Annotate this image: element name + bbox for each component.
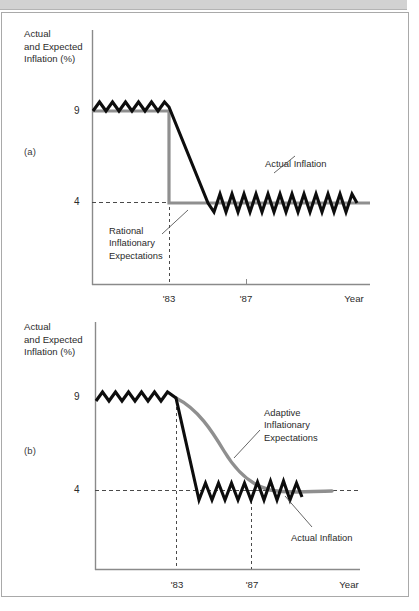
panel-a-plot (2, 13, 410, 305)
header-bar-notch (407, 0, 419, 10)
figure-page: (a) Actual and Expected Inflation (%) 9 … (0, 0, 419, 611)
page-header-bar (0, 0, 419, 10)
panel-b-actual-inflation-line (96, 392, 302, 500)
panel-b-adaptive-expectations-line (176, 398, 332, 492)
panel-b-leader-actual-inflation (285, 496, 312, 527)
panel-a-actual-inflation-line (93, 102, 357, 212)
panel-a-rational-expectations-line (93, 111, 370, 203)
panel-a-leader-actual-inflation (274, 156, 295, 173)
panel-a-leader-rational-expectations (162, 210, 188, 234)
panel-b-leader-adaptive-expectations (234, 430, 260, 458)
figure-frame: (a) Actual and Expected Inflation (%) 9 … (1, 12, 409, 597)
panel-a: (a) Actual and Expected Inflation (%) 9 … (2, 13, 410, 305)
panel-b-plot (2, 305, 410, 598)
panel-b: (b) Actual and Expected Inflation (%) 9 … (2, 305, 410, 598)
